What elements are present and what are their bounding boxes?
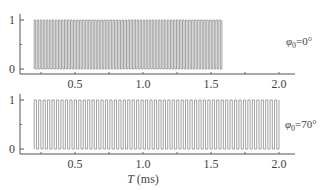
x-tick-label: 2.0 bbox=[272, 77, 287, 91]
panel-phi-70: 01 0.51.01.52.0 φ0=70° T (ms) bbox=[9, 93, 317, 186]
panel-phi-0: 01 0.51.01.52.0 φ0=0° bbox=[9, 13, 312, 91]
pulse-trace bbox=[34, 100, 279, 149]
y-tick-label: 0 bbox=[9, 142, 15, 156]
y-tick-label: 0 bbox=[9, 62, 15, 76]
x-tick-label: 0.5 bbox=[68, 157, 83, 171]
panel-label: φ0=70° bbox=[285, 118, 317, 133]
panel-label: φ0=0° bbox=[286, 35, 312, 50]
x-tick-label: 0.5 bbox=[68, 77, 83, 91]
x-tick-label: 2.0 bbox=[272, 157, 287, 171]
x-axis-title: T (ms) bbox=[127, 172, 159, 186]
x-tick-label: 1.0 bbox=[136, 77, 151, 91]
y-tick-label: 1 bbox=[9, 93, 15, 107]
x-ticks: 0.51.01.52.0 bbox=[41, 72, 287, 91]
pulse-trace bbox=[34, 20, 222, 69]
y-ticks: 01 bbox=[9, 13, 24, 76]
y-tick-label: 1 bbox=[9, 13, 15, 27]
pulse-train-figure: 01 0.51.01.52.0 φ0=0° 01 0.51.01.52.0 φ0… bbox=[0, 0, 329, 190]
y-ticks: 01 bbox=[9, 93, 24, 156]
x-tick-label: 1.5 bbox=[204, 157, 219, 171]
x-tick-label: 1.0 bbox=[136, 157, 151, 171]
x-ticks: 0.51.01.52.0 bbox=[41, 152, 287, 171]
x-tick-label: 1.5 bbox=[204, 77, 219, 91]
